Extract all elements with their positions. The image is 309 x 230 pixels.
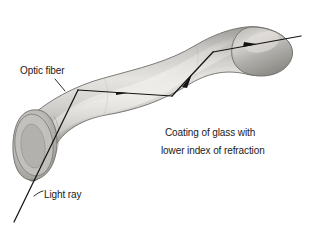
label-optic-fiber: Optic fiber bbox=[20, 65, 64, 76]
label-coating-of-glass: Coating of glass with lower index of ref… bbox=[165, 124, 265, 160]
label-light-ray: Light ray bbox=[44, 189, 81, 200]
figure-canvas: Optic fiber Light ray Coating of glass w… bbox=[0, 0, 309, 230]
label-coating-line-1: Coating of glass with bbox=[165, 124, 265, 142]
light-ray-leader bbox=[34, 191, 43, 196]
label-coating-line-2: lower index of refraction bbox=[161, 142, 265, 160]
optic-fiber-leader bbox=[55, 79, 65, 91]
